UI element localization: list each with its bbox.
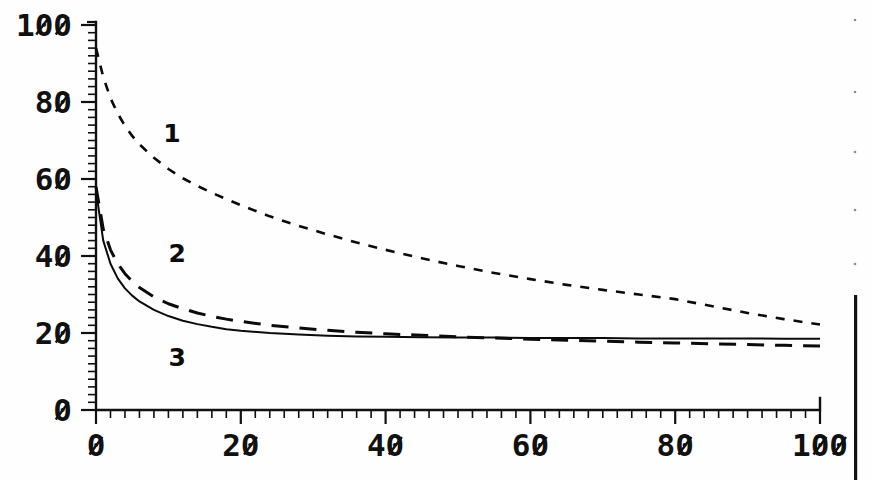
x-tick-label: 100 — [792, 427, 848, 463]
scan-speck — [854, 209, 857, 212]
y-tick-label-text: 80 — [35, 84, 72, 120]
y-tick-label: 60 — [35, 161, 72, 197]
y-tick-label: 100 — [16, 7, 72, 43]
scan-speck — [854, 19, 857, 22]
x-tick-label: 0 — [87, 427, 106, 463]
y-tick-label: 0 — [53, 392, 72, 428]
y-tick-label: 40 — [35, 238, 72, 274]
y-tick-label: 80 — [35, 84, 72, 120]
axes-group — [81, 22, 820, 424]
axis-spines — [96, 22, 820, 410]
curves-group — [96, 48, 820, 346]
x-tick-label: 80 — [657, 427, 694, 463]
y-tick-label-text: 20 — [35, 315, 72, 351]
x-tick-label: 20 — [222, 427, 259, 463]
chart-figure: 020406080100020406080100 123 — [0, 0, 872, 480]
curve-series-1 — [96, 48, 820, 324]
y-tick-label: 20 — [35, 315, 72, 351]
series-label-1: 1 — [163, 119, 180, 148]
series-labels-group: 123 — [163, 119, 185, 371]
curve-series-3 — [96, 191, 820, 339]
scan-speck — [854, 151, 857, 154]
scan-artifacts-group — [854, 19, 858, 480]
y-tick-label-text: 60 — [35, 161, 72, 197]
scan-speck — [854, 91, 857, 94]
x-tick-label-text: 80 — [657, 427, 694, 463]
scan-speck — [854, 263, 857, 266]
x-tick-label-text: 20 — [222, 427, 259, 463]
x-tick-label-text: 60 — [512, 427, 549, 463]
tick-labels-group: 020406080100020406080100 — [16, 7, 848, 463]
x-tick-label-text: 40 — [367, 427, 404, 463]
x-tick-label: 40 — [367, 427, 404, 463]
series-label-3: 3 — [168, 343, 185, 372]
y-tick-label-text: 40 — [35, 238, 72, 274]
plot-svg: 020406080100020406080100 123 — [0, 0, 872, 480]
x-tick-label: 60 — [512, 427, 549, 463]
right-edge-bar — [854, 295, 857, 480]
series-label-2: 2 — [168, 239, 185, 268]
